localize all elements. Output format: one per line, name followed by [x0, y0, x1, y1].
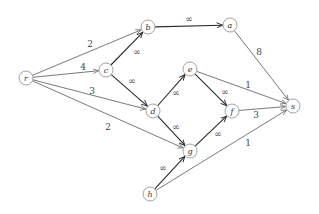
- node-d: d: [146, 104, 160, 118]
- node-label: d: [150, 107, 155, 116]
- node-h: h: [143, 187, 157, 201]
- edge-label-e-s: 1: [245, 80, 251, 90]
- node-a: a: [223, 18, 237, 32]
- edge-label-h-s: 1: [245, 138, 251, 148]
- edge-label-r-c: 4: [80, 62, 86, 72]
- edge-labels-layer: 2432∞∞∞8∞∞∞1∞3∞1: [80, 14, 262, 173]
- edge-g-f: [195, 116, 227, 146]
- node-label: h: [147, 190, 152, 199]
- edge-label-f-s: 3: [253, 110, 259, 120]
- edge-b-a: [155, 25, 223, 27]
- edge-r-c: [33, 71, 99, 78]
- edge-label-c-d: ∞: [128, 76, 136, 86]
- node-b: b: [141, 20, 155, 34]
- edge-f-s: [239, 107, 286, 111]
- edge-a-s: [234, 31, 288, 101]
- node-f: f: [225, 104, 239, 118]
- edge-e-s: [197, 71, 286, 103]
- node-label: e: [188, 65, 193, 74]
- edge-label-c-b: ∞: [133, 47, 141, 57]
- edge-label-r-g: 2: [105, 122, 111, 132]
- edge-label-g-f: ∞: [214, 129, 222, 139]
- edge-label-b-a: ∞: [185, 14, 193, 24]
- edge-r-b: [32, 30, 141, 75]
- edge-label-r-d: 3: [89, 86, 95, 96]
- node-label: s: [291, 102, 295, 111]
- edge-label-h-g: ∞: [159, 163, 167, 173]
- node-label: a: [228, 21, 233, 30]
- edge-r-g: [32, 81, 183, 148]
- node-s: s: [286, 99, 300, 113]
- node-r: r: [19, 71, 33, 85]
- node-label: c: [104, 66, 109, 75]
- node-label: g: [187, 147, 192, 156]
- node-g: g: [183, 144, 197, 158]
- node-e: e: [183, 62, 197, 76]
- edge-label-d-e: ∞: [172, 88, 180, 98]
- edge-label-r-b: 2: [87, 39, 93, 49]
- node-label: b: [145, 23, 150, 32]
- node-c: c: [99, 63, 113, 77]
- flow-network-diagram: 2432∞∞∞8∞∞∞1∞3∞1 rbacedfsgh: [0, 0, 319, 214]
- edge-label-e-f: ∞: [221, 87, 229, 97]
- edge-label-a-s: 8: [256, 47, 262, 57]
- edge-label-d-g: ∞: [172, 122, 180, 132]
